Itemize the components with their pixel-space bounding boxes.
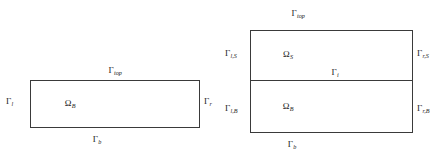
gamma-subscript: top bbox=[114, 69, 122, 76]
gamma-subscript: l,B bbox=[231, 107, 238, 114]
right-panel-gamma-top-label: Γtop bbox=[291, 9, 304, 18]
right-panel-domain-rect bbox=[250, 30, 413, 133]
gamma-subscript: r bbox=[210, 100, 212, 107]
gamma-symbol: Γ bbox=[288, 139, 293, 149]
left-panel-domain-rect bbox=[30, 80, 200, 128]
gamma-symbol: Γ bbox=[417, 48, 422, 58]
gamma-symbol: Γ bbox=[108, 65, 113, 75]
right-panel-omega-b-label: ΩB bbox=[283, 102, 293, 111]
left-panel-gamma-bottom-label: Γb bbox=[93, 135, 101, 144]
left-panel-gamma-top-label: Γtop bbox=[108, 66, 121, 75]
gamma-symbol: Γ bbox=[291, 8, 296, 18]
gamma-subscript: l,S bbox=[231, 52, 237, 59]
gamma-symbol: Γ bbox=[225, 103, 230, 113]
left-panel-gamma-left-label: Γl bbox=[6, 97, 13, 106]
omega-subscript: B bbox=[72, 102, 76, 109]
right-panel-gamma-right-bulk-label: Γr,B bbox=[417, 104, 429, 113]
right-panel-omega-s-label: ΩS bbox=[283, 50, 293, 59]
right-panel-interface-line bbox=[250, 80, 413, 81]
gamma-subscript: r,S bbox=[423, 52, 429, 59]
omega-symbol: Ω bbox=[283, 49, 290, 59]
gamma-symbol: Γ bbox=[417, 103, 422, 113]
gamma-symbol: Γ bbox=[204, 96, 209, 106]
right-panel-gamma-bottom-label: Γb bbox=[288, 140, 296, 149]
gamma-symbol: Γ bbox=[6, 96, 11, 106]
gamma-subscript: i bbox=[337, 71, 339, 78]
gamma-symbol: Γ bbox=[332, 67, 337, 77]
figure-canvas: Γtop Γl Γr Γb ΩB Γtop Γl,S Γl,B Γr,S Γr,… bbox=[0, 0, 446, 160]
left-panel-omega-b-label: ΩB bbox=[65, 99, 75, 108]
gamma-symbol: Γ bbox=[225, 48, 230, 58]
gamma-subscript: b bbox=[293, 143, 296, 150]
gamma-subscript: top bbox=[297, 12, 305, 19]
gamma-subscript: r,B bbox=[423, 107, 430, 114]
gamma-symbol: Γ bbox=[93, 134, 98, 144]
omega-subscript: B bbox=[290, 105, 294, 112]
gamma-subscript: b bbox=[98, 138, 101, 145]
left-panel-gamma-right-label: Γr bbox=[204, 97, 212, 106]
right-panel-gamma-interface-label: Γi bbox=[332, 68, 339, 77]
omega-symbol: Ω bbox=[65, 98, 72, 108]
omega-symbol: Ω bbox=[283, 101, 290, 111]
right-panel-gamma-left-solid-label: Γl,S bbox=[225, 49, 237, 58]
right-panel-gamma-left-bulk-label: Γl,B bbox=[225, 104, 237, 113]
right-panel-gamma-right-solid-label: Γr,S bbox=[417, 49, 429, 58]
gamma-subscript: l bbox=[12, 100, 14, 107]
omega-subscript: S bbox=[290, 53, 293, 60]
